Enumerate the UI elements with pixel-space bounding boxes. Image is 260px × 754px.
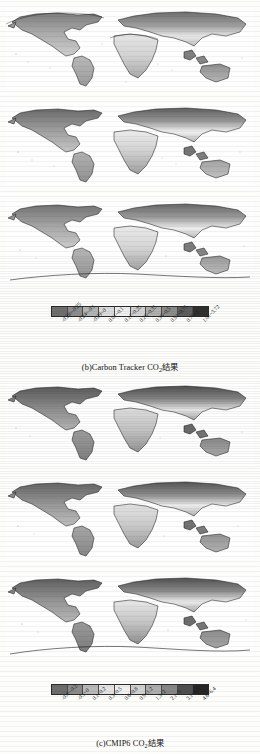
caption-c-subscript: 2 (145, 743, 148, 749)
map-panel-c1 (6, 382, 254, 466)
map-panel-b3 (6, 200, 254, 284)
map-panel-b1 (6, 8, 254, 92)
colorbar-b: -0.28~-0.25-0.24~-0.1-0.09~00.01~0.10.11… (0, 306, 260, 357)
map-panel-c3 (6, 574, 254, 658)
colorbar-c: -0.4~-0.2-0.1~00.1~0.20.3~0.50.6~0.80.9~… (0, 684, 260, 735)
world-map-graphic (6, 8, 254, 92)
world-map-graphic (6, 478, 254, 562)
caption-c: (c)CMIP6 CO2结果 (0, 736, 260, 748)
caption-c-prefix: (c)CMIP6 CO (96, 739, 144, 748)
caption-b-subscript: 2 (159, 367, 162, 373)
world-map-graphic (6, 104, 254, 188)
caption-b: (b)Carbon Tracker CO2结果 (0, 360, 260, 372)
caption-c-suffix: 结果 (148, 739, 164, 748)
world-map-graphic (6, 574, 254, 658)
colorbar-c-labels: -0.4~-0.2-0.1~00.1~0.20.3~0.50.6~0.80.9~… (0, 695, 260, 735)
caption-b-suffix: 结果 (162, 363, 178, 372)
world-map-graphic (6, 382, 254, 466)
colorbar-b-labels: -0.28~-0.25-0.24~-0.1-0.09~00.01~0.10.11… (0, 317, 260, 357)
caption-b-prefix: (b)Carbon Tracker CO (82, 363, 159, 372)
figure-page: -0.28~-0.25-0.24~-0.1-0.09~00.01~0.10.11… (0, 0, 260, 754)
map-panel-c2 (6, 478, 254, 562)
world-map-graphic (6, 200, 254, 284)
map-panel-b2 (6, 104, 254, 188)
